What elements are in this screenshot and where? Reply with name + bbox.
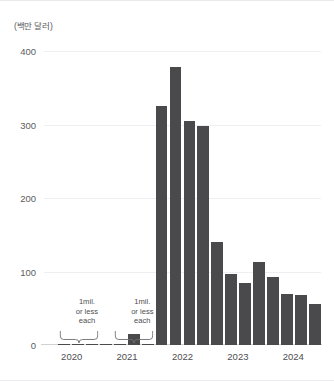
bar — [225, 274, 237, 345]
y-tick-label-100: 100 — [20, 266, 36, 277]
x-tick-label-2023: 2023 — [227, 351, 248, 362]
curly-brace-icon — [114, 331, 153, 344]
y-tick-label-300: 300 — [20, 119, 36, 130]
bar — [281, 294, 293, 345]
annotation-line: or less — [76, 307, 98, 317]
y-tick-label-400: 400 — [20, 46, 36, 57]
y-axis-unit-label: (백만 달러) — [14, 19, 53, 31]
bar-slot — [309, 51, 321, 345]
bar-slot — [239, 51, 251, 345]
annotation-right-brace — [114, 330, 153, 348]
bar-slot — [267, 51, 279, 345]
bar-slot — [281, 51, 293, 345]
bar-slot — [184, 51, 196, 345]
bar-slot — [114, 51, 126, 345]
x-tick-label-2024: 2024 — [283, 351, 304, 362]
bar-slot — [225, 51, 237, 345]
bar — [295, 295, 307, 345]
annotation-line: 1mil. — [131, 297, 153, 307]
bar — [211, 242, 223, 345]
curly-brace-icon — [59, 331, 98, 344]
y-tick-label-200: 200 — [20, 193, 36, 204]
bar-slot — [253, 51, 265, 345]
x-axis-labels: 20202021202220232024 — [44, 349, 321, 367]
x-tick-label-2020: 2020 — [61, 351, 82, 362]
bar — [253, 262, 265, 345]
bar-slot — [156, 51, 168, 345]
bar-slot — [44, 51, 56, 345]
bar — [184, 121, 196, 345]
bar-slot — [211, 51, 223, 345]
annotation-left: 1mil.or lesseach — [76, 297, 98, 326]
annotation-line: each — [131, 316, 153, 326]
annotation-line: 1mil. — [76, 297, 98, 307]
bar-slot — [100, 51, 112, 345]
annotation-line: each — [76, 316, 98, 326]
bar — [156, 106, 168, 345]
bar-slot — [295, 51, 307, 345]
bar-slot — [170, 51, 182, 345]
annotation-left-brace — [59, 330, 98, 348]
y-tick-label-0: 0 — [31, 340, 36, 351]
bar-slot — [197, 51, 209, 345]
bar-slot — [58, 51, 70, 345]
bar — [170, 67, 182, 345]
bar — [267, 277, 279, 345]
bar — [100, 344, 112, 345]
bottom-divider — [0, 374, 334, 381]
top-divider — [0, 0, 334, 5]
x-tick-label-2022: 2022 — [172, 351, 193, 362]
bar — [197, 126, 209, 345]
chart-page: (백만 달러) 0100200300400 202020212022202320… — [0, 0, 334, 381]
x-tick-label-2021: 2021 — [117, 351, 138, 362]
bar — [239, 283, 251, 345]
bar — [309, 304, 321, 345]
annotation-right: 1mil.or lesseach — [131, 297, 153, 326]
annotation-line: or less — [131, 307, 153, 317]
